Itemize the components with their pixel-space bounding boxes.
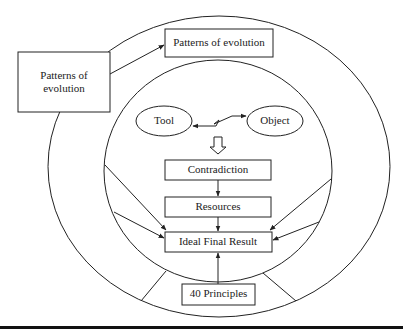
conflict-zigzag-arrow bbox=[193, 116, 246, 126]
arrow-left-upper-to-ifr bbox=[105, 165, 166, 230]
ring-separator-right bbox=[263, 273, 296, 301]
ifr-label: Ideal Final Result bbox=[179, 235, 257, 247]
patterns-of-evolution-left-box: Patterns of evolution bbox=[18, 52, 110, 112]
left-box-label-line1: Patterns of bbox=[40, 69, 88, 81]
patterns-of-evolution-top-box: Patterns of evolution bbox=[165, 29, 273, 57]
forty-principles-box: 40 Principles bbox=[182, 284, 255, 305]
arrow-left-lower-to-ifr bbox=[114, 212, 164, 238]
ideal-final-result-box: Ideal Final Result bbox=[165, 232, 272, 252]
triz-diagram: Patterns of evolution Patterns of evolut… bbox=[0, 0, 403, 335]
object-label: Object bbox=[260, 114, 289, 126]
object-node: Object bbox=[247, 106, 303, 136]
arrow-right-upper-to-ifr bbox=[270, 179, 331, 230]
ring-separator-left bbox=[141, 271, 166, 301]
bottom-rule bbox=[0, 326, 403, 329]
hollow-down-arrow-icon bbox=[210, 137, 226, 154]
contradiction-label: Contradiction bbox=[188, 163, 249, 175]
tool-node: Tool bbox=[136, 106, 192, 136]
arrow-left-to-top-box bbox=[110, 45, 164, 74]
contradiction-box: Contradiction bbox=[165, 160, 271, 180]
resources-label: Resources bbox=[195, 200, 240, 212]
top-box-label: Patterns of evolution bbox=[173, 36, 265, 48]
left-box-label-line2: evolution bbox=[43, 82, 85, 94]
principles-label: 40 Principles bbox=[190, 287, 248, 299]
resources-box: Resources bbox=[165, 197, 271, 217]
tool-label: Tool bbox=[154, 114, 174, 126]
arrow-right-lower-to-ifr bbox=[273, 222, 319, 240]
